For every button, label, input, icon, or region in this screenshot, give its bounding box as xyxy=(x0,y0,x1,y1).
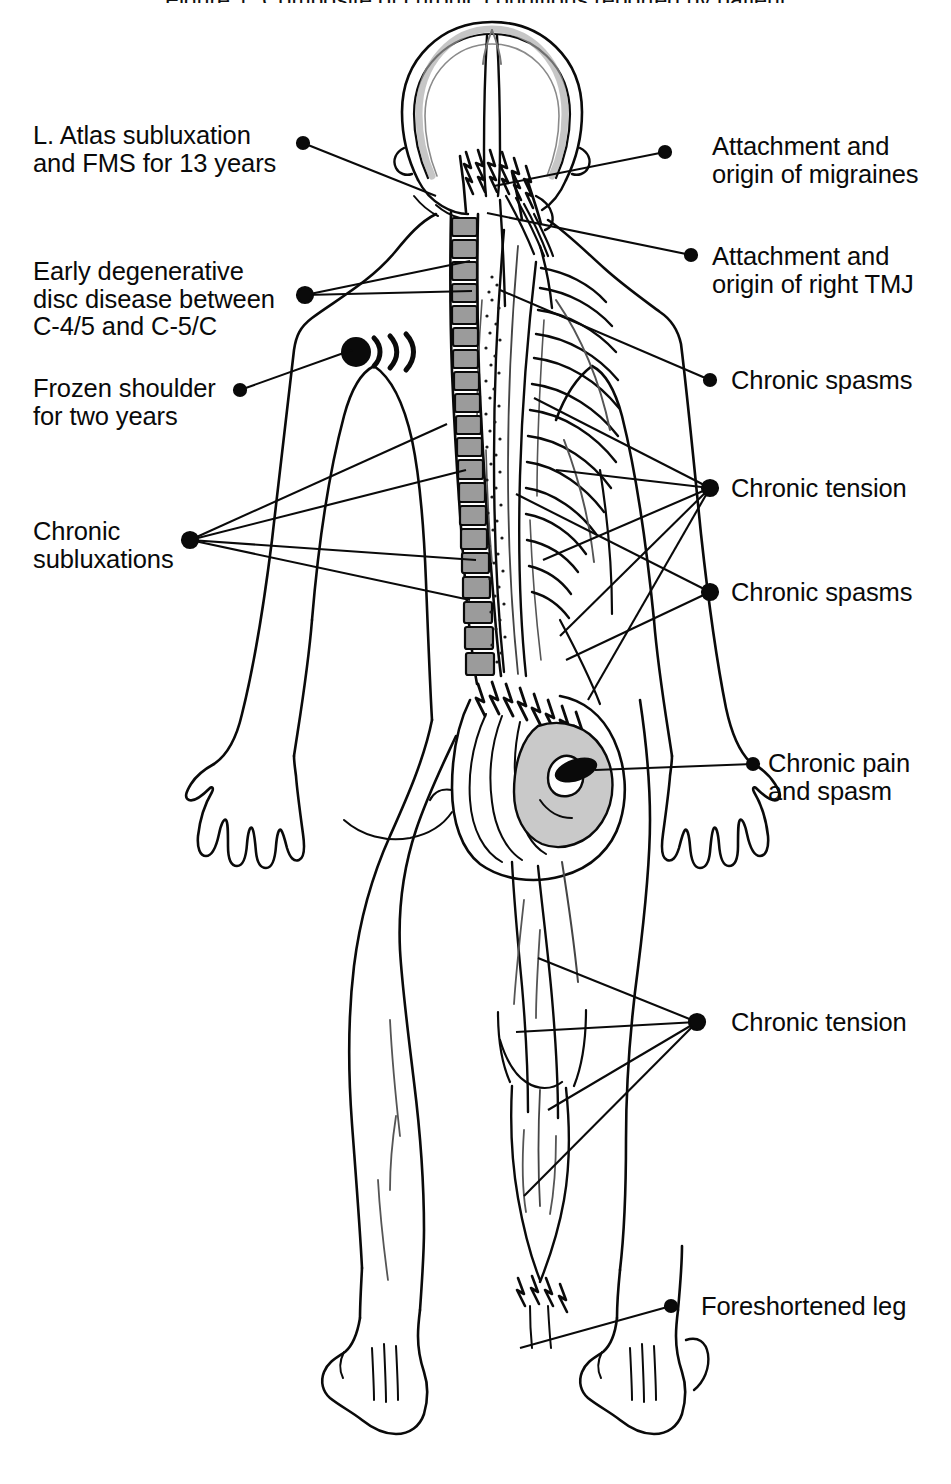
achilles-tendon-1 xyxy=(530,1306,532,1348)
left-foot xyxy=(322,1310,427,1434)
label-chronic-tension-trunk: Chronic tension xyxy=(731,475,907,503)
diagram-page: Figure 1. Composite of chronic condition… xyxy=(0,0,951,1484)
label-line: and FMS for 13 years xyxy=(33,149,276,177)
rib-11 xyxy=(526,514,586,554)
knee-medial-edge xyxy=(498,1012,510,1082)
leader-line-foreshortened-leg-0 xyxy=(520,1306,671,1348)
ls-jag-5 xyxy=(532,694,541,726)
left-leg-inner xyxy=(400,736,456,1310)
label-line: Early degenerative xyxy=(33,257,244,285)
right-foot xyxy=(580,1310,685,1434)
achilles-tendon-2 xyxy=(548,1306,551,1348)
trapezius-edge-right xyxy=(540,246,552,308)
rib-14 xyxy=(532,592,569,618)
left-flank xyxy=(374,366,432,720)
annotation-dot-chronic-pain-and-spasm[interactable] xyxy=(747,758,759,770)
leader-line-chronic-tension-leg-0 xyxy=(538,958,697,1022)
right-heel-line-1 xyxy=(630,1348,632,1400)
right-leg-inner-lower xyxy=(678,1246,682,1310)
label-line: Chronic spasms xyxy=(731,366,912,394)
leader-line-chronic-pain-and-spasm-0 xyxy=(595,764,753,770)
left-heel-line-1 xyxy=(372,1348,374,1400)
anatomical-figure xyxy=(0,0,951,1484)
label-chronic-subluxations: Chronicsubluxations xyxy=(33,518,174,573)
label-right-tmj: Attachment andorigin of right TMJ xyxy=(712,243,914,298)
label-line: disc disease between xyxy=(33,285,275,313)
label-line: Chronic spasms xyxy=(731,578,912,606)
label-atlas-subluxation: L. Atlas subluxationand FMS for 13 years xyxy=(33,122,276,177)
right-forearm-inner xyxy=(654,620,672,756)
annotation-dot-chronic-subluxations[interactable] xyxy=(182,532,198,548)
label-line: for two years xyxy=(33,402,178,430)
label-line: origin of migraines xyxy=(712,160,918,188)
label-line: Chronic xyxy=(33,517,120,545)
calf-line-a xyxy=(523,1130,526,1212)
right-lateral-malleolus xyxy=(686,1339,708,1390)
label-line: and spasm xyxy=(768,777,892,805)
annotation-dot-atlas-subluxation[interactable] xyxy=(297,137,309,149)
annotation-dot-chronic-tension-leg[interactable] xyxy=(689,1014,705,1030)
label-line: Frozen shoulder xyxy=(33,374,216,402)
label-line: C-4/5 and C-5/C xyxy=(33,312,217,340)
right-heel-line-3 xyxy=(654,1346,656,1400)
label-line: Attachment and xyxy=(712,242,889,270)
label-line: subluxations xyxy=(33,545,174,573)
annotation-dot-chronic-tension-trunk[interactable] xyxy=(702,480,718,496)
leader-line-atlas-subluxation-0 xyxy=(303,143,436,196)
ls-jag-4 xyxy=(518,688,527,720)
leader-line-chronic-spasms-lower-1 xyxy=(566,592,710,660)
erector-lateral-edge xyxy=(519,262,536,676)
knee-lateral-edge xyxy=(574,1010,586,1086)
left-hand xyxy=(186,756,304,868)
right-hand xyxy=(662,756,780,868)
label-line: origin of right TMJ xyxy=(712,270,914,298)
erector-mid-line xyxy=(508,246,518,674)
achilles-jag-1 xyxy=(517,1278,525,1306)
label-line: Foreshortened leg xyxy=(701,1292,906,1320)
achilles-jag-4 xyxy=(559,1284,567,1312)
hamstring-lateral xyxy=(538,866,558,1118)
label-chronic-tension-leg: Chronic tension xyxy=(731,1009,907,1037)
label-frozen-shoulder: Frozen shoulderfor two years xyxy=(33,375,216,430)
ls-jag-2 xyxy=(490,682,499,714)
left-calf-line xyxy=(378,1180,388,1280)
right-ankle-outer xyxy=(617,1270,620,1318)
label-migraines: Attachment andorigin of migraines xyxy=(712,133,918,188)
ls-jag-3 xyxy=(504,684,513,716)
pain-radiation-marker xyxy=(341,334,414,370)
occiput-right xyxy=(542,180,566,210)
hamstring-line-3 xyxy=(562,862,578,982)
erector-short-line-3 xyxy=(537,320,544,496)
erector-medial-edge xyxy=(494,230,504,672)
calf-line-b xyxy=(550,1136,556,1214)
leader-line-frozen-shoulder-0 xyxy=(240,350,352,390)
leader-line-chronic-tension-leg-1 xyxy=(516,1022,697,1032)
annotation-dot-chronic-spasms-upper[interactable] xyxy=(704,374,716,386)
pelvis-left-edge xyxy=(430,789,452,800)
leader-line-degenerative-disc-disease-1 xyxy=(305,291,472,295)
label-chronic-pain-and-spasm: Chronic painand spasm xyxy=(768,750,910,805)
left-knee-line xyxy=(390,1116,396,1190)
annotation-dot-foreshortened-leg[interactable] xyxy=(665,1300,677,1312)
leader-line-chronic-tension-trunk-3 xyxy=(560,488,710,636)
rib-13 xyxy=(529,566,571,594)
gluteal-fold-1 xyxy=(470,714,502,862)
annotation-dot-migraines[interactable] xyxy=(659,146,671,158)
right-arm-inner xyxy=(592,366,654,620)
achilles-jag-3 xyxy=(545,1278,553,1306)
leader-line-degenerative-disc-disease-0 xyxy=(305,261,470,295)
annotation-dot-frozen-shoulder[interactable] xyxy=(234,384,246,396)
label-foreshortened-leg: Foreshortened leg xyxy=(701,1293,906,1321)
left-arm-inner xyxy=(312,366,374,620)
annotation-dot-degenerative-disc-disease[interactable] xyxy=(297,287,313,303)
label-chronic-spasms-lower: Chronic spasms xyxy=(731,579,912,607)
label-line: L. Atlas subluxation xyxy=(33,121,251,149)
left-forearm-inner xyxy=(294,620,312,756)
annotation-dot-right-tmj[interactable] xyxy=(685,249,697,261)
annotation-dot-chronic-spasms-lower[interactable] xyxy=(702,584,718,600)
label-line: Chronic pain xyxy=(768,749,910,777)
gastroc-raphe xyxy=(539,1090,541,1206)
achilles-jag-2 xyxy=(531,1276,539,1304)
label-degenerative-disc-disease: Early degenerativedisc disease betweenC-… xyxy=(33,258,275,341)
left-heel-line-2 xyxy=(384,1344,386,1402)
